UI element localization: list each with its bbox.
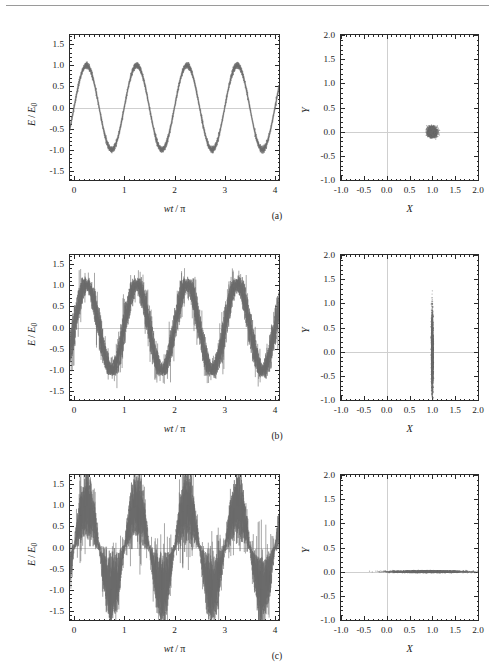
y-tick-label: -0.5	[320, 151, 335, 161]
y-tick-label: 0.0	[53, 323, 64, 333]
figure-row-c: 012341.51.00.50.0-0.5-1.0-1.5wt / πE / E…	[0, 458, 495, 670]
x-tick-label: 0.5	[404, 185, 415, 195]
x-tick-label: 0.5	[404, 405, 415, 415]
x-tick-label: 1.5	[449, 625, 460, 635]
x-tick-label: 3	[222, 185, 227, 195]
subfigure-caption: (c)	[272, 650, 283, 661]
y-tick-label: 0.0	[53, 543, 64, 553]
y-tick-label: -1.5	[49, 166, 64, 176]
y-tick-label: 0.5	[324, 103, 335, 113]
y-tick-label: 1.5	[53, 259, 64, 269]
y-tick-label: 1.5	[53, 39, 64, 49]
y-tick-label: -1.5	[49, 606, 64, 616]
x-axis-title: X	[406, 203, 412, 214]
x-tick-label: -0.5	[357, 625, 372, 635]
y-tick-label: 0.5	[53, 81, 64, 91]
x-tick-label: 1	[122, 625, 127, 635]
y-tick-label: 0.5	[53, 521, 64, 531]
plot-phasespace-b	[340, 254, 479, 401]
y-tick-major	[474, 180, 479, 181]
y-tick-label: -1.0	[320, 615, 335, 625]
x-tick-label: 2.0	[472, 625, 483, 635]
x-tick-label: 0.5	[404, 625, 415, 635]
y-tick-label: 1.5	[53, 479, 64, 489]
y-tick-label: -1.0	[49, 365, 64, 375]
x-tick-label: -0.5	[357, 185, 372, 195]
x-tick-label: 2.0	[472, 185, 483, 195]
y-tick-label: 0.5	[324, 323, 335, 333]
x-tick-label: 2	[172, 185, 177, 195]
y-tick-label: 1.0	[324, 518, 335, 528]
y-tick-label: -0.5	[320, 591, 335, 601]
y-tick-major	[340, 620, 345, 621]
y-tick-label: 0.5	[324, 543, 335, 553]
phasespace-data	[341, 35, 478, 180]
y-tick-label: 1.0	[53, 500, 64, 510]
plot-timeseries-b	[69, 254, 280, 401]
y-tick-label: -1.5	[49, 386, 64, 396]
y-tick-label: 0.0	[324, 567, 335, 577]
phasespace-data	[341, 255, 478, 400]
x-tick-label: 2	[172, 405, 177, 415]
header-rule	[6, 5, 489, 6]
y-tick-label: 0.5	[53, 301, 64, 311]
phasespace-data	[341, 475, 478, 620]
x-tick-label: 1.0	[427, 185, 438, 195]
y-tick-label: 1.0	[324, 78, 335, 88]
y-tick-major	[474, 620, 479, 621]
y-tick-label: 1.0	[53, 60, 64, 70]
plot-phasespace-c	[340, 474, 479, 621]
x-tick-label: 0.0	[381, 405, 392, 415]
y-tick-label: 1.5	[324, 54, 335, 64]
subfigure-caption: (a)	[272, 210, 283, 221]
x-tick-label: 0	[72, 405, 77, 415]
y-tick-label: 1.5	[324, 494, 335, 504]
timeseries-data	[70, 35, 279, 180]
y-tick-label: 1.0	[53, 280, 64, 290]
x-tick-label: 4	[273, 625, 278, 635]
x-tick-label: 1	[122, 185, 127, 195]
x-tick-label: 1.0	[427, 625, 438, 635]
y-tick-label: 0.0	[324, 127, 335, 137]
x-tick-label: -0.5	[357, 405, 372, 415]
x-axis-title: X	[406, 643, 412, 654]
x-tick-label: 1.5	[449, 405, 460, 415]
y-tick-label: -0.5	[49, 124, 64, 134]
x-tick-label: 0	[72, 625, 77, 635]
figure-row-a: 012341.51.00.50.0-0.5-1.0-1.5wt / πE / E…	[0, 18, 495, 238]
plot-timeseries-a	[69, 34, 280, 181]
y-tick-label: -1.0	[49, 585, 64, 595]
plot-timeseries-c	[69, 474, 280, 621]
y-tick-major	[340, 400, 345, 401]
x-axis-title: wt / π	[164, 203, 186, 214]
plot-phasespace-a	[340, 34, 479, 181]
y-tick-label: 1.5	[324, 274, 335, 284]
y-tick-label: 0.0	[53, 103, 64, 113]
y-tick-label: -1.0	[49, 145, 64, 155]
x-tick-label: 1.0	[427, 405, 438, 415]
y-axis-title: Y	[300, 107, 311, 113]
y-axis-title: Y	[300, 547, 311, 553]
x-axis-title: wt / π	[164, 643, 186, 654]
y-tick-label: -1.0	[320, 395, 335, 405]
x-tick-label: 1.5	[449, 185, 460, 195]
x-tick-label: 2	[172, 625, 177, 635]
y-tick-label: 2.0	[324, 250, 335, 260]
timeseries-data	[70, 475, 279, 620]
y-tick-major	[340, 180, 345, 181]
x-tick-label: 2.0	[472, 405, 483, 415]
x-tick-label: 0.0	[381, 625, 392, 635]
y-axis-title: Y	[300, 327, 311, 333]
x-tick-label: 0.0	[381, 185, 392, 195]
x-tick-label: 3	[222, 625, 227, 635]
x-tick-label: -1.0	[334, 625, 349, 635]
timeseries-data	[70, 255, 279, 400]
x-tick-label: 0	[72, 185, 77, 195]
x-tick-label: 3	[222, 405, 227, 415]
y-tick-label: -0.5	[49, 564, 64, 574]
y-tick-label: -1.0	[320, 175, 335, 185]
y-tick-label: 2.0	[324, 470, 335, 480]
x-tick-label: 4	[273, 405, 278, 415]
x-tick-label: -1.0	[334, 185, 349, 195]
x-axis-title: wt / π	[164, 423, 186, 434]
